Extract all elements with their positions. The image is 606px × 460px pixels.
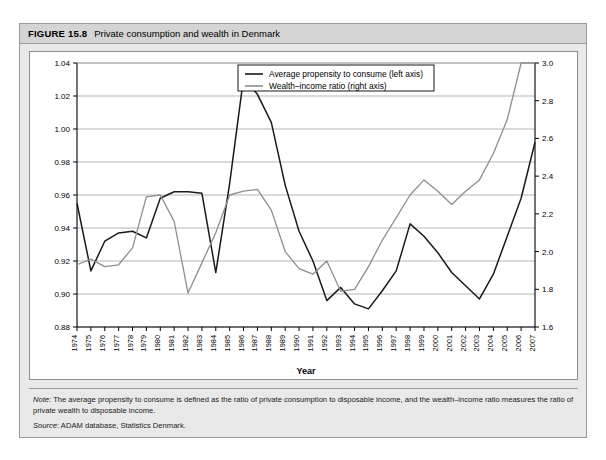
svg-text:1987: 1987 bbox=[250, 335, 259, 351]
svg-text:1999: 1999 bbox=[417, 335, 426, 351]
svg-text:2001: 2001 bbox=[445, 335, 454, 351]
svg-text:1988: 1988 bbox=[264, 335, 273, 351]
figure-notes: Note: The average propensity to consume … bbox=[29, 388, 578, 431]
note-body: : The average propensity to consume is d… bbox=[33, 395, 573, 415]
svg-text:1975: 1975 bbox=[84, 335, 93, 351]
svg-text:1986: 1986 bbox=[237, 335, 246, 351]
svg-text:1990: 1990 bbox=[292, 335, 301, 351]
svg-text:1991: 1991 bbox=[306, 335, 315, 351]
svg-text:1.04: 1.04 bbox=[54, 59, 70, 68]
svg-text:1984: 1984 bbox=[209, 335, 218, 351]
svg-text:1989: 1989 bbox=[278, 335, 287, 351]
svg-text:2.4: 2.4 bbox=[542, 172, 554, 181]
svg-text:2002: 2002 bbox=[459, 335, 468, 351]
svg-text:1997: 1997 bbox=[389, 335, 398, 351]
source-body: : ADAM database, Statistics Denmark. bbox=[57, 421, 186, 430]
svg-text:2.6: 2.6 bbox=[542, 134, 554, 143]
svg-text:0.90: 0.90 bbox=[54, 290, 70, 299]
svg-text:1996: 1996 bbox=[375, 335, 384, 351]
svg-text:2000: 2000 bbox=[431, 335, 440, 351]
svg-text:1994: 1994 bbox=[348, 335, 357, 351]
source-prefix: Source bbox=[33, 421, 57, 430]
figure-number-label: FIGURE 15.8 bbox=[28, 28, 87, 39]
svg-text:2005: 2005 bbox=[500, 335, 509, 351]
x-axis-title: Year bbox=[296, 366, 316, 376]
svg-text:0.94: 0.94 bbox=[54, 224, 70, 233]
svg-text:1981: 1981 bbox=[167, 335, 176, 351]
svg-text:2003: 2003 bbox=[472, 335, 481, 351]
svg-text:1993: 1993 bbox=[334, 335, 343, 351]
svg-text:1980: 1980 bbox=[153, 335, 162, 351]
note-prefix: Note bbox=[33, 395, 49, 404]
svg-text:1977: 1977 bbox=[112, 335, 121, 351]
x-axis-ticks: 1974197519761977197819791980198119821983… bbox=[70, 327, 537, 351]
svg-text:2.8: 2.8 bbox=[542, 97, 554, 106]
svg-text:0.96: 0.96 bbox=[54, 191, 70, 200]
left-axis-ticks: 0.880.900.920.940.960.981.001.021.04 bbox=[54, 59, 77, 332]
svg-text:Wealth–income ratio (right axi: Wealth–income ratio (right axis) bbox=[269, 81, 387, 91]
svg-text:2.0: 2.0 bbox=[542, 248, 554, 257]
svg-text:0.88: 0.88 bbox=[54, 323, 70, 332]
right-axis-ticks: 1.61.82.02.22.42.62.83.0 bbox=[535, 59, 554, 332]
svg-text:2.2: 2.2 bbox=[542, 210, 554, 219]
svg-text:1982: 1982 bbox=[181, 335, 190, 351]
source-text: Source: ADAM database, Statistics Denmar… bbox=[33, 421, 574, 432]
svg-text:1.02: 1.02 bbox=[54, 92, 70, 101]
chart-series-group bbox=[77, 63, 535, 309]
svg-text:1979: 1979 bbox=[139, 335, 148, 351]
svg-text:1976: 1976 bbox=[98, 335, 107, 351]
svg-text:1.8: 1.8 bbox=[542, 285, 554, 294]
svg-text:Average propensity to consume: Average propensity to consume (left axis… bbox=[269, 69, 423, 79]
svg-text:0.98: 0.98 bbox=[54, 158, 70, 167]
svg-text:1995: 1995 bbox=[361, 335, 370, 351]
svg-text:2004: 2004 bbox=[486, 335, 495, 351]
figure-container: FIGURE 15.8 Private consumption and weal… bbox=[19, 23, 587, 438]
line-chart: 0.880.900.920.940.960.981.001.021.04 1.6… bbox=[30, 52, 577, 379]
svg-text:2006: 2006 bbox=[514, 335, 523, 351]
svg-text:3.0: 3.0 bbox=[542, 59, 554, 68]
svg-text:2007: 2007 bbox=[528, 335, 537, 351]
svg-text:1992: 1992 bbox=[320, 335, 329, 351]
svg-text:1.00: 1.00 bbox=[54, 125, 70, 134]
figure-title: Private consumption and wealth in Denmar… bbox=[94, 28, 280, 39]
note-text: Note: The average propensity to consume … bbox=[33, 395, 574, 416]
chart-panel: 0.880.900.920.940.960.981.001.021.04 1.6… bbox=[29, 51, 578, 380]
chart-legend: Average propensity to consume (left axis… bbox=[238, 65, 434, 91]
svg-text:1983: 1983 bbox=[195, 335, 204, 351]
svg-text:1978: 1978 bbox=[126, 335, 135, 351]
svg-text:1974: 1974 bbox=[70, 335, 79, 351]
svg-text:0.92: 0.92 bbox=[54, 257, 70, 266]
svg-text:1.6: 1.6 bbox=[542, 323, 554, 332]
svg-text:1998: 1998 bbox=[403, 335, 412, 351]
figure-header: FIGURE 15.8 Private consumption and weal… bbox=[20, 24, 586, 44]
svg-text:1985: 1985 bbox=[223, 335, 232, 351]
